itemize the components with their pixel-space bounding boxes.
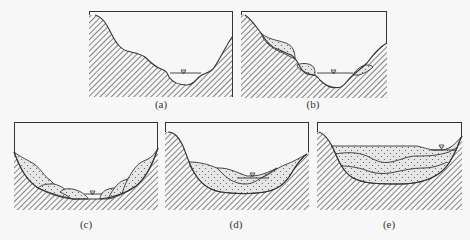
panel-d bbox=[165, 122, 309, 210]
caption-d: (d) bbox=[216, 218, 256, 230]
caption-e: (e) bbox=[369, 218, 409, 230]
diagram-b bbox=[241, 11, 387, 98]
panel-e bbox=[317, 122, 462, 210]
diagram-d bbox=[165, 122, 309, 210]
diagram-a bbox=[89, 11, 233, 97]
panel-b bbox=[241, 11, 387, 98]
diagram-c bbox=[14, 122, 158, 210]
caption-a: (a) bbox=[141, 98, 181, 110]
caption-c: (c) bbox=[66, 218, 106, 230]
panel-a bbox=[89, 11, 233, 97]
diagram-e bbox=[317, 122, 462, 210]
panel-c bbox=[14, 122, 158, 210]
caption-b: (b) bbox=[293, 98, 333, 110]
